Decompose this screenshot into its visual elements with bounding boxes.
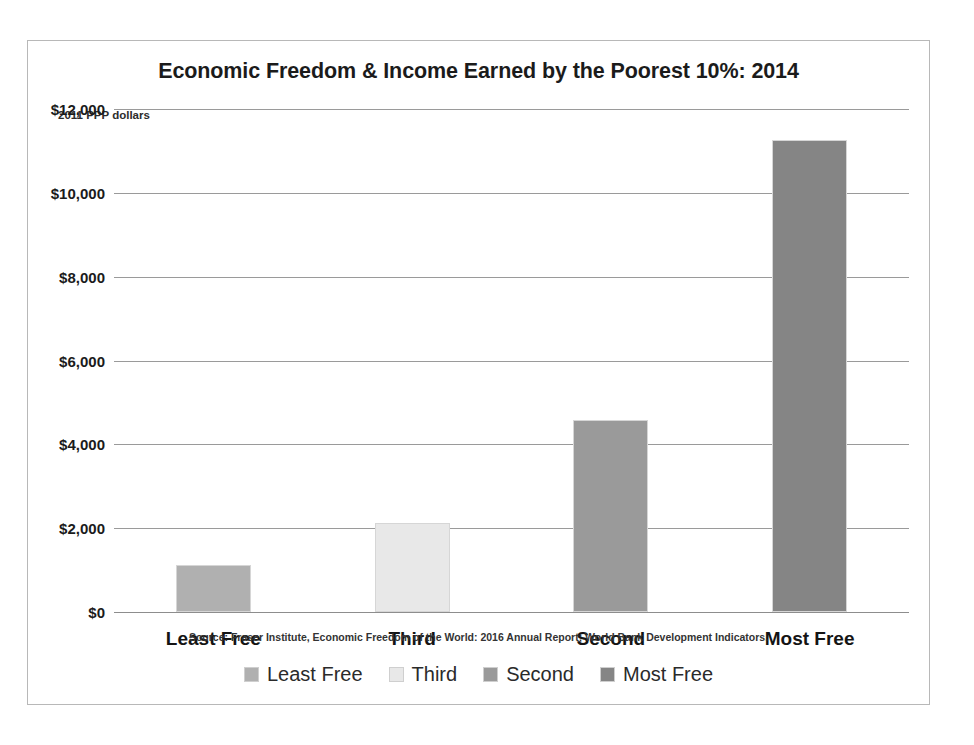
- source-note: Source: Fraser Institute, Economic Freed…: [28, 631, 929, 643]
- y-axis-tick-label: $2,000: [59, 520, 105, 537]
- legend-swatch-icon: [389, 667, 404, 682]
- y-axis-tick-label: $8,000: [59, 268, 105, 285]
- y-axis-tick-label: $4,000: [59, 436, 105, 453]
- legend-item[interactable]: Third: [389, 663, 458, 686]
- axis-baseline: [114, 612, 909, 613]
- y-axis-tick-label: $6,000: [59, 352, 105, 369]
- bar: [573, 420, 648, 612]
- legend-label: Least Free: [267, 663, 363, 686]
- y-axis-tick-label: $10,000: [51, 184, 105, 201]
- bar: [176, 565, 251, 612]
- plot-area: $12,000$10,000$8,000$6,000$4,000$2,000$0…: [114, 109, 931, 612]
- gridline: [114, 109, 909, 110]
- chart-title: Economic Freedom & Income Earned by the …: [28, 59, 929, 84]
- bar: [772, 140, 847, 612]
- chart-frame: Economic Freedom & Income Earned by the …: [27, 40, 930, 705]
- legend-swatch-icon: [483, 667, 498, 682]
- legend-label: Most Free: [623, 663, 713, 686]
- legend-swatch-icon: [244, 667, 259, 682]
- legend-label: Third: [412, 663, 458, 686]
- y-axis-tick-label: $12,000: [51, 101, 105, 118]
- legend-swatch-icon: [600, 667, 615, 682]
- legend-item[interactable]: Second: [483, 663, 574, 686]
- legend-label: Second: [506, 663, 574, 686]
- y-axis-tick-label: $0: [88, 604, 105, 621]
- legend-item[interactable]: Least Free: [244, 663, 363, 686]
- bar: [375, 523, 450, 612]
- chart-legend: Least FreeThirdSecondMost Free: [28, 663, 929, 686]
- legend-item[interactable]: Most Free: [600, 663, 713, 686]
